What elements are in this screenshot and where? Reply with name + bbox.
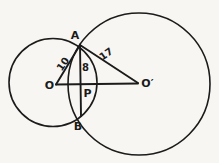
center-line-O-Oprime bbox=[56, 84, 138, 85]
chord-AB bbox=[80, 45, 81, 117]
label-point-P: P bbox=[83, 87, 91, 100]
label-measure-AP-8: 8 bbox=[82, 62, 89, 73]
label-point-O-prime: O′ bbox=[141, 77, 153, 90]
label-point-O: O bbox=[45, 79, 54, 92]
geometry-figure: A B O O′ P 10 17 8 bbox=[0, 0, 219, 163]
paper-background bbox=[0, 0, 219, 163]
label-point-B: B bbox=[74, 120, 82, 133]
figure-canvas: A B O O′ P 10 17 8 bbox=[0, 0, 219, 163]
label-point-A: A bbox=[71, 29, 80, 42]
